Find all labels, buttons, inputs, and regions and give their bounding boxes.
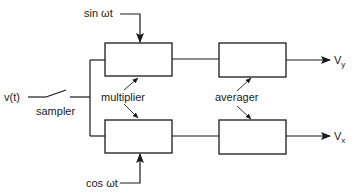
multiplier-block-bottom xyxy=(105,120,172,153)
averager-label: averager xyxy=(215,91,259,103)
output-y-subscript: y xyxy=(341,60,345,69)
reference-cos-label: cos ωt xyxy=(86,177,118,189)
multiplier-label: multiplier xyxy=(101,91,145,103)
reference-sin-label: sin ωt xyxy=(84,7,113,19)
sin-reference-arrow-icon xyxy=(120,14,140,42)
output-y-label: Vy xyxy=(334,54,345,69)
sampler-label: sampler xyxy=(36,105,75,117)
lock-in-block-diagram: v(t) sampler sin ωt cos ωt multiplier av… xyxy=(0,0,353,195)
multiplier-pointer-top-icon xyxy=(124,78,138,90)
output-x-subscript: x xyxy=(341,136,345,145)
multiplier-block-top xyxy=(105,43,172,76)
multiplier-pointer-bottom-icon xyxy=(124,104,138,118)
output-x-label: Vx xyxy=(334,130,345,145)
sampler-switch-icon xyxy=(46,90,66,97)
averager-pointer-bottom-icon xyxy=(237,106,251,119)
cos-reference-arrow-icon xyxy=(120,154,140,183)
averager-pointer-top-icon xyxy=(237,78,251,91)
averager-block-top xyxy=(219,43,286,77)
input-signal-label: v(t) xyxy=(4,91,20,103)
averager-block-bottom xyxy=(219,120,286,154)
